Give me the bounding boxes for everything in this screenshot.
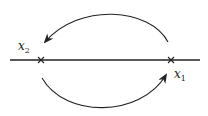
upper-arc-arrow [45, 14, 168, 42]
label-x1: x1 [174, 67, 186, 83]
label-x2: x2 [18, 39, 30, 55]
lower-arc-arrow [42, 75, 166, 108]
diagram-canvas: x2 x1 [0, 0, 208, 116]
